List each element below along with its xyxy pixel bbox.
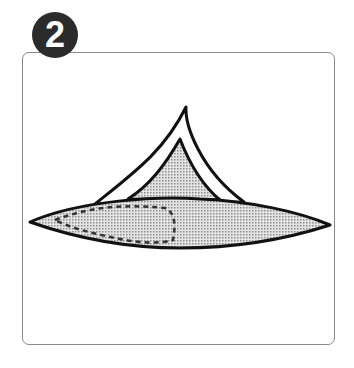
lens-body <box>30 198 330 248</box>
step-number-badge: 2 <box>32 12 78 58</box>
